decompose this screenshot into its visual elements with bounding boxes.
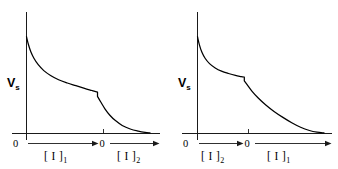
chart-panel-left: 0 0 Vs [ I ]1 [ I ]2 [0, 0, 169, 169]
range-arrow-head-left-2 [153, 141, 160, 147]
origin-zero-label-right: 0 [183, 138, 188, 149]
range-label-left-1-sub: 1 [63, 156, 67, 165]
mid-zero-label-left: 0 [100, 138, 105, 149]
range-label-left-2: [ I ]2 [117, 150, 141, 165]
y-axis-label-left: Vs [7, 76, 20, 92]
range-label-right-1: [ I ]2 [201, 150, 225, 165]
mid-zero-label-right: 0 [245, 138, 250, 149]
titration-curve-left [27, 37, 151, 133]
range-label-right-1-base: [ I ] [201, 150, 220, 162]
range-arrow-head-right-1 [237, 141, 244, 147]
range-label-left-2-sub: 2 [136, 156, 140, 165]
range-label-right-2-sub: 1 [286, 156, 290, 165]
range-label-right-1-sub: 2 [220, 156, 224, 165]
range-label-right-2: [ I ]1 [267, 150, 291, 165]
y-axis-label-sub-left: s [15, 83, 20, 92]
range-label-left-1: [ I ]1 [44, 150, 68, 165]
y-axis-label-sub-right: s [186, 83, 191, 92]
range-label-left-1-base: [ I ] [44, 150, 63, 162]
chart-svg-left: 0 0 Vs [ I ]1 [ I ]2 [0, 0, 169, 169]
range-arrow-head-left-1 [92, 141, 99, 147]
chart-svg-right: 0 0 Vs [ I ]2 [ I ]1 [169, 0, 338, 169]
range-label-left-2-base: [ I ] [117, 150, 136, 162]
origin-zero-label-left: 0 [13, 138, 18, 149]
y-axis-label-right: Vs [178, 76, 191, 92]
range-label-right-2-base: [ I ] [267, 150, 286, 162]
titration-curve-right [198, 37, 325, 133]
chart-panel-right: 0 0 Vs [ I ]2 [ I ]1 [169, 0, 338, 169]
figure-container: 0 0 Vs [ I ]1 [ I ]2 0 0 Vs [0, 0, 338, 169]
range-arrow-head-right-2 [325, 141, 332, 147]
